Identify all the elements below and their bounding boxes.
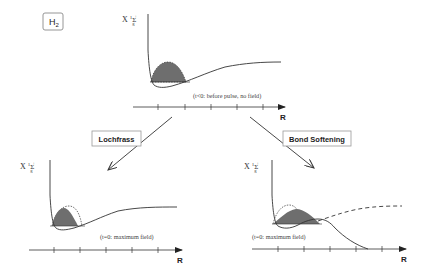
r-label-bottom-right: R [401, 255, 407, 264]
wavepacket-top [151, 62, 186, 82]
state-label-bottom-left: X1Σg+ [20, 161, 36, 173]
wavepacket-bottom-left [52, 208, 78, 226]
state-label-top: X1Σg+ [122, 14, 138, 26]
panel-top: X1Σg+ (t<0: before pulse, no field) R [122, 14, 286, 122]
bond-softening-label-box: Bond Softening [283, 131, 351, 146]
r-label-top: R [280, 113, 286, 122]
diagram-canvas: H2 X1Σg+ (t<0: before pulse, no field) R… [0, 0, 427, 274]
caption-top: (t<0: before pulse, no field) [193, 92, 261, 100]
lochfrass-label-box: Lochfrass [92, 131, 141, 146]
caption-bottom-right: (t=0: maximum field) [252, 233, 306, 241]
panel-bottom-right: X1Σg+ (t=0: maximum field) R [244, 160, 407, 264]
lochfrass-label: Lochfrass [99, 135, 135, 144]
field-free-potential-dashed [318, 206, 402, 221]
caption-bottom-left: (t=0: maximum field) [100, 233, 154, 241]
r-label-bottom-left: R [177, 256, 183, 265]
wavepacket-bottom-right [273, 209, 320, 224]
molecule-label-box: H2 [43, 13, 63, 30]
panel-bottom-left: X1Σg+ (t=0: maximum field) R [20, 160, 183, 265]
state-label-bottom-right: X1Σg+ [244, 161, 260, 173]
bond-softening-label: Bond Softening [289, 135, 345, 144]
